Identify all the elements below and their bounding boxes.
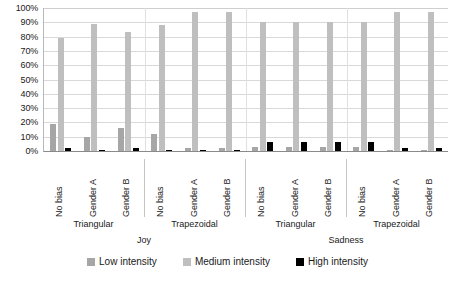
bar xyxy=(200,150,206,152)
emotion-group-labels: JoySadness xyxy=(43,234,447,248)
bar xyxy=(368,142,374,151)
plot-area xyxy=(43,8,448,152)
category-label: Gender A xyxy=(88,161,100,217)
y-axis: 0%10%20%30%40%50%60%70%80%90%100% xyxy=(0,8,42,158)
category-label: Gender B xyxy=(323,161,335,217)
bar xyxy=(118,128,124,151)
bar-group xyxy=(313,8,347,151)
y-axis-tick: 60% xyxy=(21,61,38,70)
bar xyxy=(91,24,97,151)
legend-item[interactable]: High intensity xyxy=(296,257,368,267)
bar-group xyxy=(280,8,314,151)
bar xyxy=(428,12,434,151)
category-axis-separator xyxy=(346,159,347,217)
membership-function-labels: TriangularTrapezoidalTriangularTrapezoid… xyxy=(43,218,447,232)
bar xyxy=(387,150,393,152)
legend-swatch-icon xyxy=(87,258,95,266)
bar-group xyxy=(145,8,179,151)
bar xyxy=(320,147,326,151)
bar xyxy=(166,150,172,152)
legend-label: Medium intensity xyxy=(195,257,270,267)
category-label: Gender A xyxy=(189,161,201,217)
category-axis-separator xyxy=(245,159,246,217)
bar xyxy=(353,147,359,151)
group-separator xyxy=(145,8,146,151)
bar xyxy=(65,148,71,151)
category-label: Gender A xyxy=(391,161,403,217)
category-axis-labels: No biasGender AGender BNo biasGender AGe… xyxy=(43,159,447,217)
bar xyxy=(421,150,427,152)
emotion-label: Sadness xyxy=(245,234,447,246)
bar xyxy=(286,147,292,151)
legend-item[interactable]: Low intensity xyxy=(87,257,157,267)
bar xyxy=(361,22,367,151)
bar xyxy=(50,124,56,151)
bar-group xyxy=(381,8,415,151)
membership-function-label: Trapezoidal xyxy=(346,218,447,230)
bars-layer xyxy=(44,8,448,151)
legend-label: High intensity xyxy=(308,257,368,267)
group-separator xyxy=(246,8,247,151)
category-label: No bias xyxy=(357,161,369,217)
bar xyxy=(335,142,341,151)
bar xyxy=(267,142,273,151)
bar-group xyxy=(212,8,246,151)
category-label: No bias xyxy=(54,161,66,217)
y-axis-tick: 40% xyxy=(21,89,38,98)
chart-legend: Low intensityMedium intensityHigh intens… xyxy=(0,254,455,270)
y-axis-tick: 100% xyxy=(16,4,38,13)
bar-group xyxy=(414,8,448,151)
bar xyxy=(84,137,90,151)
plot-wrapper: 0%10%20%30%40%50%60%70%80%90%100% xyxy=(0,8,455,158)
membership-function-label: Triangular xyxy=(245,218,346,230)
bar xyxy=(151,134,157,151)
bar xyxy=(394,12,400,151)
bar xyxy=(252,147,258,151)
bar xyxy=(133,148,139,151)
legend-swatch-icon xyxy=(296,258,304,266)
bar xyxy=(436,148,442,151)
bar-group xyxy=(44,8,78,151)
emotion-label: Joy xyxy=(43,234,245,246)
group-separator xyxy=(347,8,348,151)
bar xyxy=(185,148,191,151)
y-axis-tick: 70% xyxy=(21,46,38,55)
category-label: Gender A xyxy=(290,161,302,217)
legend-swatch-icon xyxy=(183,258,191,266)
bar xyxy=(402,148,408,151)
bar xyxy=(125,32,131,151)
bar xyxy=(301,142,307,151)
membership-function-label: Trapezoidal xyxy=(144,218,245,230)
category-label: No bias xyxy=(155,161,167,217)
bar xyxy=(58,38,64,151)
bar xyxy=(327,22,333,151)
bar-chart: 0%10%20%30%40%50%60%70%80%90%100% No bia… xyxy=(0,0,455,287)
bar-group xyxy=(347,8,381,151)
y-axis-tick: 30% xyxy=(21,104,38,113)
category-label: Gender B xyxy=(222,161,234,217)
bar xyxy=(260,22,266,151)
membership-function-label: Triangular xyxy=(43,218,144,230)
y-axis-tick: 0% xyxy=(25,147,38,156)
bar xyxy=(226,12,232,151)
y-axis-tick: 80% xyxy=(21,32,38,41)
category-label: No bias xyxy=(256,161,268,217)
bar-group xyxy=(179,8,213,151)
bar-group xyxy=(78,8,112,151)
category-axis-separator xyxy=(144,159,145,217)
legend-item[interactable]: Medium intensity xyxy=(183,257,270,267)
y-axis-tick: 10% xyxy=(21,132,38,141)
bar xyxy=(234,150,240,152)
y-axis-tick: 50% xyxy=(21,75,38,84)
bar xyxy=(219,148,225,151)
bar xyxy=(293,22,299,151)
bar xyxy=(99,150,105,152)
y-axis-tick: 90% xyxy=(21,18,38,27)
legend-label: Low intensity xyxy=(99,257,157,267)
bar-group xyxy=(111,8,145,151)
category-label: Gender B xyxy=(424,161,436,217)
category-label: Gender B xyxy=(121,161,133,217)
bar-group xyxy=(246,8,280,151)
bar xyxy=(192,12,198,151)
bar xyxy=(159,25,165,151)
